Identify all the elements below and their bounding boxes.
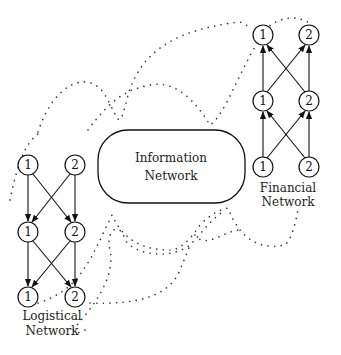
svg-text:1: 1 [24, 290, 32, 304]
edge [32, 241, 70, 287]
financial-network-label-line2: Network [262, 195, 316, 209]
dotted-link-5 [71, 210, 225, 335]
dotted-link-1 [38, 22, 252, 132]
svg-text:1: 1 [259, 28, 267, 42]
information-network: Information Network [98, 130, 245, 203]
logistical-network: 1 2 1 2 1 2 Logistical Network [18, 155, 85, 338]
dotted-link-2 [88, 42, 258, 130]
dotted-link-7 [90, 245, 190, 303]
svg-text:2: 2 [71, 290, 79, 304]
svg-text:2: 2 [71, 225, 79, 239]
financial-node-mid-1: 1 [253, 91, 273, 111]
logistical-node-mid-2: 2 [65, 222, 85, 242]
edge [32, 174, 70, 222]
information-network-box [98, 130, 245, 203]
svg-text:1: 1 [259, 94, 267, 108]
information-network-label-line1: Information [135, 151, 207, 165]
edge [33, 174, 71, 222]
svg-text:2: 2 [305, 94, 313, 108]
logistical-network-label-line2: Network [26, 324, 80, 338]
svg-text:1: 1 [24, 158, 32, 172]
financial-network: 1 2 1 2 1 2 Financial Network [253, 25, 319, 209]
financial-network-label-line1: Financial [260, 181, 316, 195]
logistical-node-top-1: 1 [18, 155, 38, 175]
logistical-node-top-2: 2 [65, 155, 85, 175]
financial-node-top-1: 1 [253, 25, 273, 45]
svg-text:1: 1 [24, 225, 32, 239]
financial-node-bottom-2: 2 [299, 157, 319, 177]
financial-node-mid-2: 2 [299, 91, 319, 111]
supply-chain-network-diagram: Information Network 1 2 1 2 1 2 Logistic… [0, 0, 341, 355]
logistical-node-mid-1: 1 [18, 222, 38, 242]
logistical-network-label-line1: Logistical [22, 309, 81, 323]
financial-node-bottom-1: 1 [253, 157, 273, 177]
logistical-node-bottom-1: 1 [18, 287, 38, 307]
logistical-node-bottom-2: 2 [65, 287, 85, 307]
edge [33, 241, 71, 287]
svg-text:2: 2 [305, 28, 313, 42]
svg-text:2: 2 [305, 160, 313, 174]
svg-text:2: 2 [71, 158, 79, 172]
financial-node-top-2: 2 [299, 25, 319, 45]
svg-text:1: 1 [259, 160, 267, 174]
information-network-label-line2: Network [145, 169, 199, 183]
